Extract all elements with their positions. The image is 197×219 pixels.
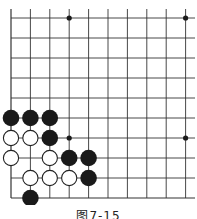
figure-caption: 图7-15 [0,206,197,219]
star-point [67,135,72,140]
black-stone [61,150,78,167]
black-stone [3,110,20,127]
star-point [183,15,188,20]
white-stone [42,150,57,165]
black-stone [80,170,97,187]
white-stone [62,170,77,185]
go-board [0,0,197,205]
white-stone [23,130,38,145]
white-stone [3,150,18,165]
black-stone [80,150,97,167]
white-stone [42,170,57,185]
board-grid-lines [11,9,195,198]
star-point [183,135,188,140]
black-stone [22,190,39,205]
black-stone [42,130,59,147]
white-stone [3,130,18,145]
black-stone [22,110,39,127]
star-point [67,15,72,20]
black-stone [42,110,59,127]
white-stone [23,170,38,185]
